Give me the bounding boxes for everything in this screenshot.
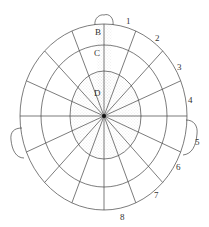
sector-label-6: 6 [176, 162, 181, 172]
center-point [102, 114, 106, 118]
sector-label-7: 7 [154, 190, 159, 200]
sector-label-2: 2 [155, 33, 160, 43]
stipple-shading [70, 24, 141, 159]
ring-label-b: B [95, 27, 101, 37]
ring-label-c: C [94, 48, 100, 58]
ring-label-d: D [94, 88, 101, 98]
sector-label-4: 4 [188, 95, 193, 105]
sector-label-3: 3 [177, 62, 182, 72]
sector-label-1: 1 [126, 16, 131, 26]
left-ear-icon [11, 128, 24, 158]
sector-label-8: 8 [120, 212, 125, 222]
sector-label-5: 5 [195, 137, 200, 147]
nose-icon [95, 15, 113, 25]
head-polar-diagram: B C D 1 2 3 4 5 6 7 8 [0, 0, 209, 227]
